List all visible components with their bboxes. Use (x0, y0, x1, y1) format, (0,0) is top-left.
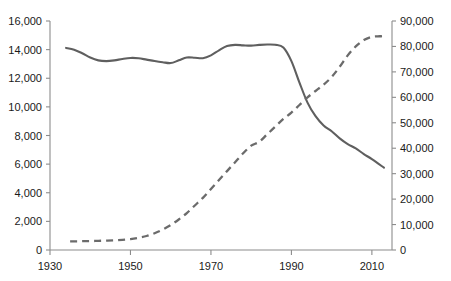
right-tick-label: 40,000 (400, 142, 434, 154)
left-tick-label: 4,000 (14, 187, 42, 199)
right-tick-label: 60,000 (400, 91, 434, 103)
left-tick-label: 14,000 (8, 44, 42, 56)
right-tick-label: 10,000 (400, 219, 434, 231)
x-tick-label: 1990 (279, 260, 303, 272)
right-tick-label: 30,000 (400, 168, 434, 180)
right-tick-label: 20,000 (400, 193, 434, 205)
left-tick-label: 2,000 (14, 215, 42, 227)
right-tick-label: 90,000 (400, 15, 434, 27)
x-tick-label: 1970 (199, 260, 223, 272)
left-tick-label: 6,000 (14, 158, 42, 170)
chart-container: 02,0004,0006,0008,00010,00012,00014,0001… (0, 0, 451, 281)
x-tick-label: 1950 (118, 260, 142, 272)
series-layer (66, 36, 384, 242)
line-chart-plot: 02,0004,0006,0008,00010,00012,00014,0001… (0, 0, 451, 281)
left-tick-label: 12,000 (8, 72, 42, 84)
left-tick-label: 16,000 (8, 15, 42, 27)
x-axis: 19301950197019902010 (38, 250, 392, 272)
left-tick-label: 10,000 (8, 101, 42, 113)
right-tick-label: 80,000 (400, 40, 434, 52)
right-tick-label: 0 (400, 244, 406, 256)
x-tick-label: 1930 (38, 260, 62, 272)
left-tick-label: 8,000 (14, 130, 42, 142)
x-tick-label: 2010 (360, 260, 384, 272)
right-tick-label: 50,000 (400, 117, 434, 129)
series-line-solid-series (66, 44, 384, 167)
series-line-dashed-series (70, 36, 384, 242)
right-tick-label: 70,000 (400, 66, 434, 78)
right-axis: 010,00020,00030,00040,00050,00060,00070,… (392, 15, 434, 256)
left-tick-label: 0 (36, 244, 42, 256)
left-axis: 02,0004,0006,0008,00010,00012,00014,0001… (8, 15, 50, 256)
